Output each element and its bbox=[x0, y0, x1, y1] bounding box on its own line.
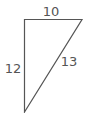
label-left-side: 12 bbox=[5, 61, 22, 76]
label-top-side: 10 bbox=[43, 4, 60, 19]
label-hypotenuse: 13 bbox=[61, 54, 78, 69]
triangle-diagram: 10 12 13 bbox=[0, 0, 86, 113]
